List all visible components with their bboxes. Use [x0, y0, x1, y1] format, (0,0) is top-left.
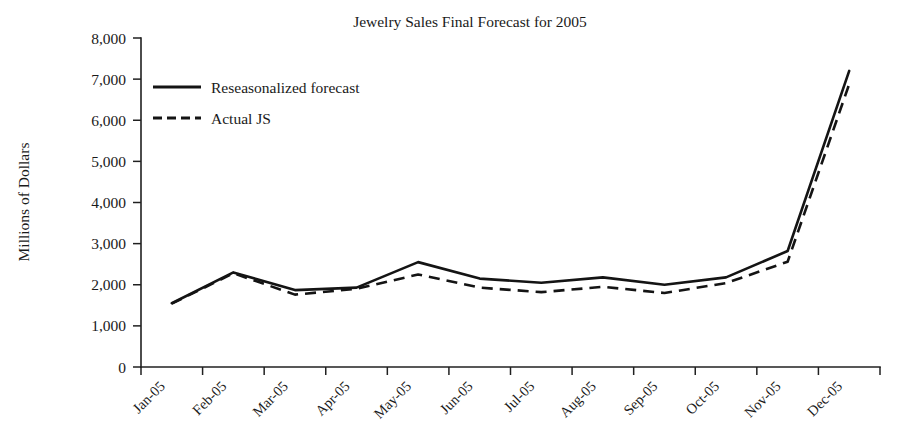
x-tick-label: Sep-05 — [620, 378, 660, 418]
legend-label-1: Reseasonalized forecast — [211, 79, 360, 96]
x-tick-label: Jan-05 — [129, 378, 168, 417]
y-tick-label: 1,000 — [91, 317, 126, 334]
y-tick-label: 3,000 — [91, 235, 126, 252]
y-tick-label: 2,000 — [91, 276, 126, 293]
x-tick-label: May-05 — [370, 378, 414, 422]
x-tick-label: Jun-05 — [437, 378, 476, 417]
x-tick-label: Apr-05 — [312, 378, 353, 419]
x-tick-label: Mar-05 — [249, 378, 291, 420]
x-tick-label: Dec-05 — [804, 378, 845, 419]
x-tick-label: Nov-05 — [741, 378, 784, 421]
x-axis-ticks: Jan-05Feb-05Mar-05Apr-05May-05Jun-05Jul-… — [129, 367, 880, 422]
legend-label-2: Actual JS — [211, 110, 271, 127]
series-line-1 — [172, 71, 849, 303]
data-series-group — [172, 71, 849, 304]
y-tick-label: 0 — [118, 359, 126, 376]
y-axis-ticks: 01,0002,0003,0004,0005,0006,0007,0008,00… — [91, 30, 141, 376]
chart-legend: Reseasonalized forecastActual JS — [153, 79, 360, 127]
y-tick-label: 7,000 — [91, 71, 126, 88]
y-tick-label: 8,000 — [91, 30, 126, 47]
y-tick-label: 6,000 — [91, 112, 126, 129]
line-chart: Jewelry Sales Final Forecast for 2005 Mi… — [0, 0, 901, 442]
y-axis-label: Millions of Dollars — [15, 143, 32, 262]
x-tick-label: Aug-05 — [556, 378, 599, 421]
x-tick-label: Feb-05 — [189, 378, 229, 418]
chart-container: Jewelry Sales Final Forecast for 2005 Mi… — [0, 0, 901, 442]
chart-title: Jewelry Sales Final Forecast for 2005 — [353, 13, 587, 30]
y-tick-label: 4,000 — [91, 194, 126, 211]
x-tick-label: Jul-05 — [500, 378, 537, 415]
y-tick-label: 5,000 — [91, 153, 126, 170]
series-line-2 — [172, 84, 849, 304]
x-tick-label: Oct-05 — [682, 378, 722, 418]
